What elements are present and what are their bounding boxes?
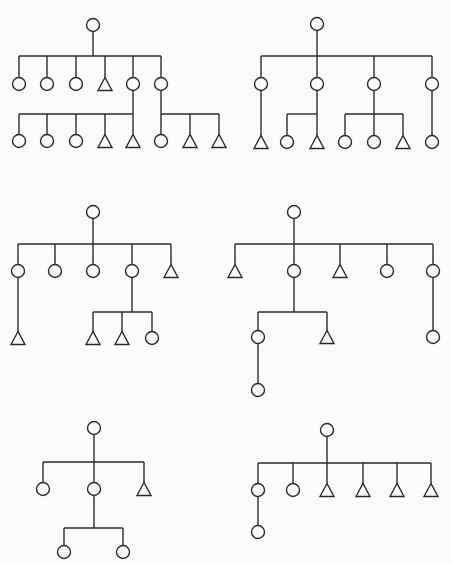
circle-node-icon	[127, 78, 140, 91]
circle-node-icon	[155, 78, 168, 91]
tree-6	[252, 424, 439, 539]
triangle-node-icon	[254, 136, 268, 149]
triangle-node-icon	[11, 332, 25, 345]
circle-node-icon	[87, 19, 100, 32]
triangle-node-icon	[356, 484, 370, 497]
circle-node-icon	[426, 78, 439, 91]
circle-node-icon	[426, 136, 439, 149]
circle-node-icon	[70, 78, 83, 91]
triangle-node-icon	[183, 135, 197, 148]
circle-node-icon	[321, 424, 334, 437]
tree-3	[11, 206, 178, 345]
triangle-node-icon	[310, 136, 324, 149]
triangle-node-icon	[228, 265, 242, 278]
triangle-node-icon	[333, 265, 347, 278]
circle-node-icon	[13, 78, 26, 91]
circle-node-icon	[281, 136, 294, 149]
triangle-node-icon	[320, 331, 334, 344]
circle-node-icon	[287, 484, 300, 497]
triangle-node-icon	[137, 483, 151, 496]
triangle-node-icon	[115, 332, 129, 345]
tree-5	[37, 422, 152, 559]
triangle-node-icon	[320, 484, 334, 497]
triangle-node-icon	[164, 265, 178, 278]
tree-4	[228, 206, 440, 397]
edges	[235, 219, 433, 384]
circle-node-icon	[252, 526, 265, 539]
circle-node-icon	[155, 135, 168, 148]
triangle-node-icon	[98, 135, 112, 148]
triangle-node-icon	[390, 484, 404, 497]
circle-node-icon	[87, 206, 100, 219]
kinship-diagram-canvas	[0, 0, 451, 564]
circle-node-icon	[311, 78, 324, 91]
circle-node-icon	[288, 265, 301, 278]
circle-node-icon	[252, 384, 265, 397]
circle-node-icon	[12, 265, 25, 278]
circle-node-icon	[49, 265, 62, 278]
triangle-node-icon	[98, 78, 112, 91]
circle-node-icon	[117, 546, 130, 559]
tree-1	[13, 19, 227, 148]
circle-node-icon	[252, 331, 265, 344]
circle-node-icon	[41, 135, 54, 148]
circle-node-icon	[368, 136, 381, 149]
circle-node-icon	[146, 332, 159, 345]
circle-node-icon	[255, 78, 268, 91]
circle-node-icon	[381, 265, 394, 278]
circle-node-icon	[41, 78, 54, 91]
circle-node-icon	[88, 422, 101, 435]
circle-node-icon	[252, 484, 265, 497]
circle-node-icon	[13, 135, 26, 148]
edges	[261, 31, 432, 136]
tree-2	[254, 18, 439, 149]
triangle-node-icon	[212, 135, 226, 148]
circle-node-icon	[37, 483, 50, 496]
tree-diagrams	[0, 0, 451, 564]
circle-node-icon	[70, 135, 83, 148]
circle-node-icon	[368, 78, 381, 91]
circle-node-icon	[58, 546, 71, 559]
circle-node-icon	[427, 265, 440, 278]
circle-node-icon	[311, 18, 324, 31]
circle-node-icon	[126, 265, 139, 278]
triangle-node-icon	[126, 135, 140, 148]
circle-node-icon	[288, 206, 301, 219]
triangle-node-icon	[424, 484, 438, 497]
circle-node-icon	[339, 136, 352, 149]
circle-node-icon	[87, 265, 100, 278]
triangle-node-icon	[86, 332, 100, 345]
circle-node-icon	[88, 483, 101, 496]
circle-node-icon	[427, 331, 440, 344]
triangle-node-icon	[396, 136, 410, 149]
edges	[258, 437, 431, 526]
